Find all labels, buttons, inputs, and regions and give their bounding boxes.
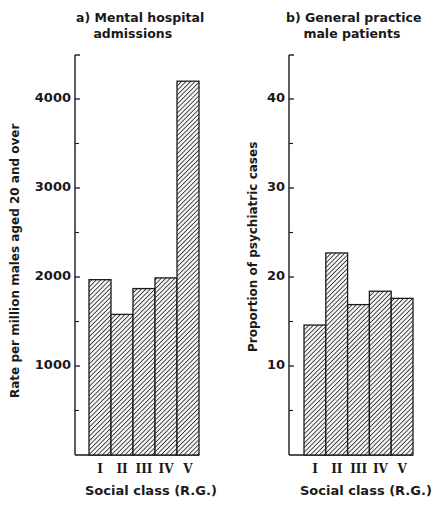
chart-a-y-tick-label: 2000 — [21, 268, 71, 283]
chart-b-bar-I — [304, 325, 326, 455]
chart-b-bar-III — [348, 305, 370, 455]
chart-a-x-tick-label: I — [89, 462, 111, 476]
chart-a-x-tick-label: III — [133, 462, 155, 476]
chart-b-bar-II — [326, 253, 348, 455]
chart-b-y-tick-label: 40 — [235, 90, 285, 105]
chart-a-x-tick-label: V — [177, 462, 199, 476]
chart-b-y-tick-label: 10 — [235, 357, 285, 372]
chart-b-x-tick-label: II — [326, 462, 348, 476]
chart-b-bar-V — [391, 298, 413, 455]
chart-b-bar-IV — [369, 291, 391, 455]
chart-a-x-tick-label: IV — [155, 462, 177, 476]
chart-a-bar-V — [177, 81, 199, 455]
chart-a-bar-I — [89, 280, 111, 455]
chart-b-y-tick-label: 20 — [235, 268, 285, 283]
chart-a-y-tick-label: 1000 — [21, 357, 71, 372]
chart-b-y-tick-label: 30 — [235, 179, 285, 194]
chart-a-x-tick-label: II — [111, 462, 133, 476]
chart-a-bar-III — [133, 289, 155, 455]
chart-a-y-tick-label: 3000 — [21, 179, 71, 194]
chart-b-x-axis-label: Social class (R.G.) — [300, 483, 432, 498]
chart-a-bar-IV — [155, 278, 177, 455]
chart-b-x-tick-label: I — [304, 462, 326, 476]
chart-b-x-tick-label: V — [391, 462, 413, 476]
chart-b-x-tick-label: III — [348, 462, 370, 476]
chart-a-x-axis-label: Social class (R.G.) — [85, 483, 217, 498]
chart-a-bar-II — [111, 314, 133, 455]
chart-b-x-tick-label: IV — [369, 462, 391, 476]
chart-a-y-tick-label: 4000 — [21, 90, 71, 105]
